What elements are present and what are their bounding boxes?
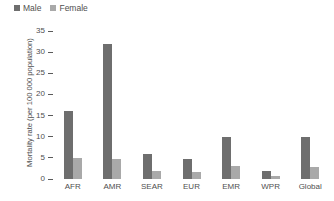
bar-sear-female — [152, 171, 161, 179]
bar-amr-male — [103, 44, 112, 179]
y-tick-20: 20 — [36, 89, 53, 99]
bar-group-amr — [103, 44, 121, 179]
bar-global-male — [301, 137, 310, 179]
bar-group-eur — [183, 159, 201, 179]
bar-afr-male — [64, 111, 73, 179]
bar-wpr-female — [271, 176, 280, 179]
legend-swatch-male-icon — [14, 5, 20, 11]
bar-group-wpr — [262, 171, 280, 179]
bar-sear-male — [143, 154, 152, 179]
plot-area — [53, 31, 330, 179]
y-tick-25: 25 — [36, 68, 53, 78]
bar-eur-male — [183, 159, 192, 179]
y-axis-ticks: 05101520253035 — [0, 31, 53, 179]
x-label-wpr: WPR — [251, 181, 291, 192]
y-tick-label: 5 — [41, 153, 45, 163]
y-tick-label: 30 — [36, 47, 45, 57]
bar-amr-female — [112, 159, 121, 179]
x-axis-labels: AFRAMRSEAREUREMRWPRGlobal — [53, 181, 330, 195]
x-label-eur: EUR — [172, 181, 212, 192]
x-label-sear: SEAR — [132, 181, 172, 192]
x-label-amr: AMR — [93, 181, 133, 192]
bar-group-emr — [222, 137, 240, 179]
y-tick-15: 15 — [36, 111, 53, 121]
y-tick-label: 20 — [36, 89, 45, 99]
chart-legend: Male Female — [14, 2, 88, 14]
bar-afr-female — [73, 158, 82, 179]
bar-chart: Male Female Mortality rate (per 100 000 … — [0, 0, 334, 201]
x-label-global: Global — [290, 181, 330, 192]
bar-group-afr — [64, 111, 82, 179]
y-tick-label: 25 — [36, 68, 45, 78]
y-tick-5: 5 — [41, 153, 53, 163]
bar-group-sear — [143, 154, 161, 179]
bar-group-global — [301, 137, 319, 179]
y-tick-35: 35 — [36, 26, 53, 36]
bar-emr-male — [222, 137, 231, 179]
legend-item-male: Male — [14, 4, 41, 13]
legend-item-female: Female — [50, 4, 87, 13]
legend-swatch-female-icon — [50, 5, 56, 11]
y-tick-label: 10 — [36, 132, 45, 142]
bar-eur-female — [192, 172, 201, 179]
legend-label-female: Female — [59, 4, 87, 13]
bar-wpr-male — [262, 171, 271, 179]
y-tick-0: 0 — [41, 174, 53, 184]
x-label-afr: AFR — [53, 181, 93, 192]
legend-label-male: Male — [23, 4, 41, 13]
y-tick-label: 15 — [36, 111, 45, 121]
bar-emr-female — [231, 166, 240, 179]
bar-global-female — [310, 167, 319, 179]
x-label-emr: EMR — [211, 181, 251, 192]
y-tick-label: 0 — [41, 174, 45, 184]
y-tick-label: 35 — [36, 26, 45, 36]
y-tick-10: 10 — [36, 132, 53, 142]
y-tick-30: 30 — [36, 47, 53, 57]
